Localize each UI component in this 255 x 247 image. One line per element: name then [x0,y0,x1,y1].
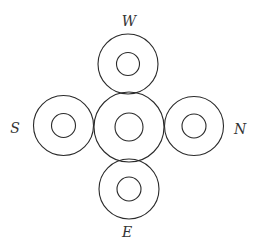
s-inner-circle [52,114,76,138]
w-label: W [122,13,138,29]
e-label: E [121,224,132,240]
n-label: N [233,121,247,137]
w-ring: W [98,13,158,94]
e-inner-circle [117,177,141,201]
e-outer-circle [99,159,159,219]
n-outer-circle [165,97,224,156]
center-inner-circle [115,113,143,141]
center-ring [94,92,164,162]
s-outer-circle [34,96,94,156]
s-ring: S [10,96,93,156]
n-ring: N [165,97,247,156]
e-ring: E [99,159,159,240]
w-outer-circle [98,34,158,94]
n-inner-circle [182,114,206,138]
s-label: S [10,120,20,136]
w-inner-circle [117,53,140,76]
center-outer-circle [94,92,164,162]
compass-ring-diagram: W S N E [0,0,255,247]
